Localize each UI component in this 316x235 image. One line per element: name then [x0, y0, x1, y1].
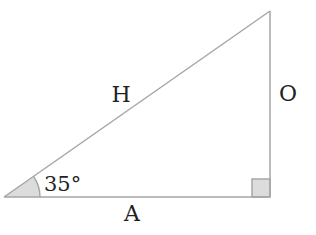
hypotenuse-label: H	[111, 82, 130, 107]
angle-label: 35°	[44, 172, 81, 196]
right-triangle-diagram: H O A 35°	[0, 0, 316, 235]
adjacent-label: A	[123, 201, 141, 226]
opposite-label: O	[279, 81, 297, 106]
hypotenuse-side	[4, 11, 270, 197]
right-angle-marker	[252, 179, 270, 197]
